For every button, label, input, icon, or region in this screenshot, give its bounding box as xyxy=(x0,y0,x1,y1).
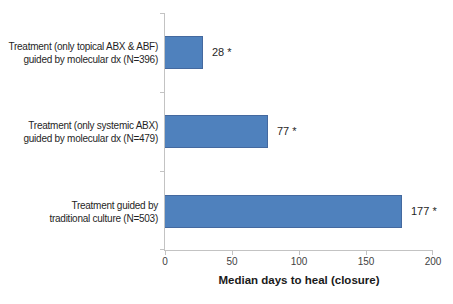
x-axis-tick xyxy=(432,251,433,255)
category-label-line: Treatment (only topical ABX & ABF) xyxy=(2,40,158,53)
category-label-line: guided by molecular dx (N=396) xyxy=(2,53,158,66)
bar-traditional-culture xyxy=(165,195,402,228)
bar-chart: Treatment (only topical ABX & ABF) guide… xyxy=(0,0,453,304)
x-tick-label-0: 0 xyxy=(145,256,185,267)
y-axis-tick xyxy=(160,171,164,172)
x-tick-label-50: 50 xyxy=(212,256,252,267)
x-tick-label-150: 150 xyxy=(346,256,386,267)
x-axis-tick xyxy=(299,251,300,255)
x-tick-label-200: 200 xyxy=(413,256,453,267)
category-label-line: Treatment (only systemic ABX) xyxy=(2,119,158,132)
bar-topical-abx-abf xyxy=(165,36,203,69)
y-axis-tick xyxy=(160,13,164,14)
category-label-line: Treatment guided by xyxy=(2,199,158,212)
category-label-line: guided by molecular dx (N=479) xyxy=(2,132,158,145)
data-label-systemic: 77 * xyxy=(277,115,297,148)
plot-area: 28 * 77 * 177 * 0 50 100 150 200 Median … xyxy=(164,13,433,251)
category-label-line: traditional culture (N=503) xyxy=(2,212,158,225)
data-label-topical: 28 * xyxy=(212,36,232,69)
category-label-topical: Treatment (only topical ABX & ABF) guide… xyxy=(2,40,158,66)
y-axis-tick xyxy=(160,249,164,250)
x-tick-label-100: 100 xyxy=(279,256,319,267)
x-axis-tick xyxy=(366,251,367,255)
data-label-traditional: 177 * xyxy=(411,195,437,228)
category-label-traditional: Treatment guided by traditional culture … xyxy=(2,199,158,225)
y-axis-tick xyxy=(160,92,164,93)
x-axis-tick xyxy=(165,251,166,255)
x-axis-tick xyxy=(232,251,233,255)
category-label-systemic: Treatment (only systemic ABX) guided by … xyxy=(2,119,158,145)
bar-systemic-abx xyxy=(165,115,268,148)
x-axis-title: Median days to heal (closure) xyxy=(165,274,433,286)
